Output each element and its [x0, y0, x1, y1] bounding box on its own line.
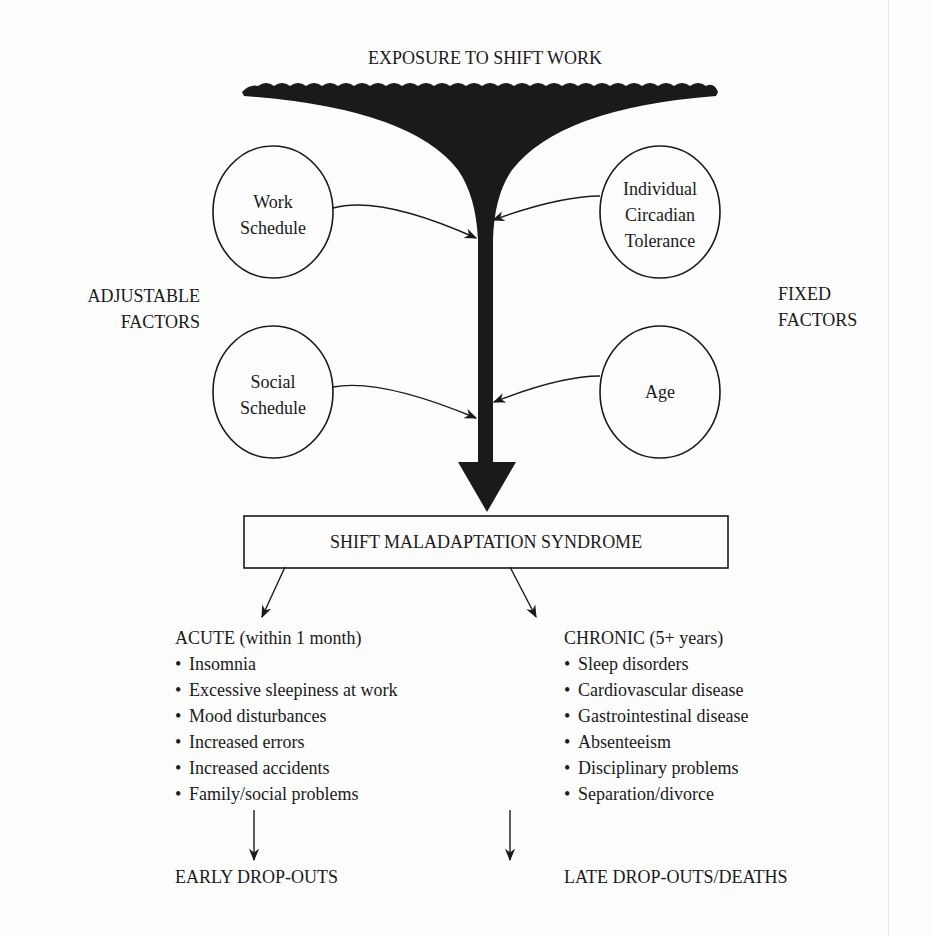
age-label: Age [645, 381, 675, 403]
adjustable-factors-label: ADJUSTABLE FACTORS [10, 283, 200, 335]
social-schedule-line-2: Schedule [240, 395, 306, 421]
diagram-title: EXPOSURE TO SHIFT WORK [368, 47, 602, 69]
list-item: Gastrointestinal disease [564, 703, 748, 729]
fixed-factors-label: FIXED FACTORS [778, 281, 857, 333]
list-item: Mood disturbances [175, 703, 397, 729]
chronic-list: CHRONIC (5+ years) Sleep disorders Cardi… [564, 625, 748, 807]
list-item: Increased accidents [175, 755, 397, 781]
chronic-heading: CHRONIC (5+ years) [564, 625, 748, 651]
syndrome-box-label: SHIFT MALADAPTATION SYNDROME [330, 531, 642, 553]
list-item: Disciplinary problems [564, 755, 748, 781]
social-schedule-line-1: Social [240, 369, 306, 395]
list-item: Sleep disorders [564, 651, 748, 677]
adjustable-line-2: FACTORS [10, 309, 200, 335]
arrow-to-acute [262, 567, 285, 617]
work-schedule-line-2: Schedule [240, 215, 306, 241]
list-item: Family/social problems [175, 781, 397, 807]
circadian-tolerance-label: Individual Circadian Tolerance [623, 176, 697, 254]
diagram-graphics [0, 0, 933, 937]
list-item: Increased errors [175, 729, 397, 755]
acute-heading: ACUTE (within 1 month) [175, 625, 397, 651]
list-item: Insomnia [175, 651, 397, 677]
arrow-social-schedule [333, 385, 476, 418]
arrow-circadian [493, 196, 600, 220]
fixed-line-1: FIXED [778, 281, 857, 307]
list-item: Excessive sleepiness at work [175, 677, 397, 703]
arrow-age [494, 376, 600, 402]
early-dropouts-label: EARLY DROP-OUTS [175, 866, 338, 888]
list-item: Separation/divorce [564, 781, 748, 807]
list-item: Absenteeism [564, 729, 748, 755]
arrow-work-schedule [333, 205, 476, 238]
work-schedule-label: Work Schedule [240, 189, 306, 241]
fixed-line-2: FACTORS [778, 307, 857, 333]
list-item: Cardiovascular disease [564, 677, 748, 703]
adjustable-line-1: ADJUSTABLE [10, 283, 200, 309]
late-dropouts-label: LATE DROP-OUTS/DEATHS [564, 866, 788, 888]
circadian-line-2: Circadian [623, 202, 697, 228]
circadian-line-1: Individual [623, 176, 697, 202]
acute-list: ACUTE (within 1 month) Insomnia Excessiv… [175, 625, 397, 807]
social-schedule-label: Social Schedule [240, 369, 306, 421]
arrow-to-chronic [510, 567, 536, 617]
circadian-line-3: Tolerance [623, 228, 697, 254]
work-schedule-line-1: Work [240, 189, 306, 215]
